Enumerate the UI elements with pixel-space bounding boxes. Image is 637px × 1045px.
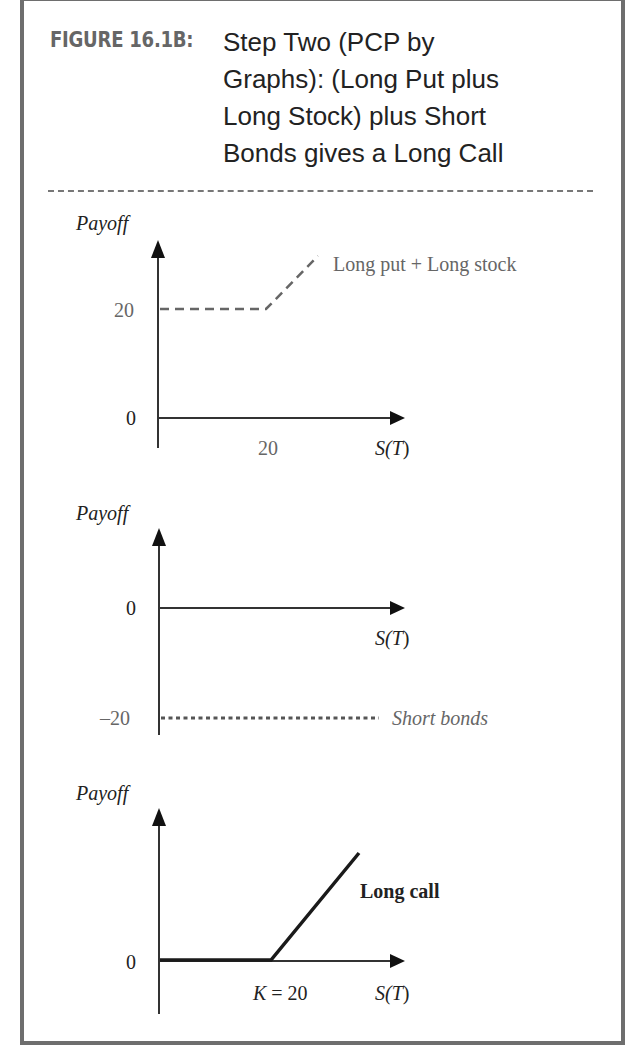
chart-long-call: Payoff 0 K = 20 S(T) Long call bbox=[75, 782, 440, 1014]
series-long-call bbox=[160, 853, 359, 960]
y-axis-label: Payoff bbox=[75, 782, 131, 805]
x-axis-label: S(T) bbox=[375, 437, 409, 460]
series-label: Long put + Long stock bbox=[333, 253, 517, 276]
series-label: Short bonds bbox=[392, 707, 488, 729]
series-label: Long call bbox=[360, 880, 440, 903]
x-axis-arrow-icon bbox=[390, 411, 405, 425]
y-tick-0: 0 bbox=[126, 951, 136, 973]
y-tick-0: 0 bbox=[126, 597, 136, 619]
chart-short-bonds: Payoff 0 –20 S(T) Short bonds bbox=[75, 502, 488, 735]
x-tick-k-20: K = 20 bbox=[252, 982, 308, 1004]
y-axis-label: Payoff bbox=[75, 212, 131, 235]
x-axis-label: S(T) bbox=[375, 627, 409, 650]
y-axis-arrow-icon bbox=[151, 240, 165, 258]
y-axis-arrow-icon bbox=[152, 808, 166, 826]
x-axis-arrow-icon bbox=[390, 601, 405, 615]
series-long-put-long-stock bbox=[160, 256, 318, 309]
y-axis-label: Payoff bbox=[75, 502, 131, 525]
x-axis-label: S(T) bbox=[375, 982, 409, 1005]
y-tick-minus-20: –20 bbox=[99, 707, 130, 729]
y-tick-20: 20 bbox=[114, 299, 134, 321]
chart-long-put-plus-long-stock: Payoff 20 0 20 S(T) Long put + Long stoc… bbox=[75, 212, 517, 460]
x-axis-arrow-icon bbox=[390, 954, 405, 968]
y-axis-arrow-icon bbox=[152, 528, 166, 546]
x-tick-20: 20 bbox=[258, 437, 278, 459]
y-tick-0: 0 bbox=[126, 407, 136, 429]
